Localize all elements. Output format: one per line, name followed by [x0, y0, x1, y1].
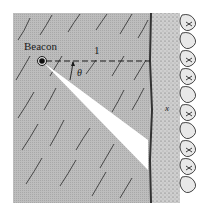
- shore-position-label: x: [165, 103, 169, 113]
- distance-label: 1: [94, 44, 100, 56]
- beacon-label: Beacon: [24, 40, 57, 52]
- angle-label: θ: [77, 67, 82, 78]
- shrubs: [180, 15, 196, 193]
- beacon-diagram: [0, 0, 211, 215]
- beacon-icon: [39, 58, 45, 64]
